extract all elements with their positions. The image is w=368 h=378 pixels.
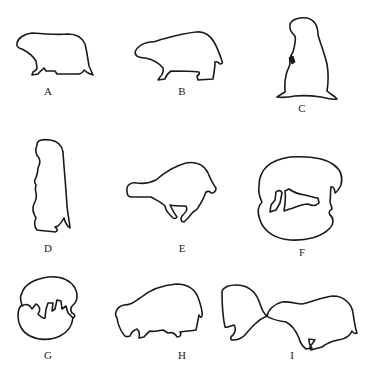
panel-c-drawing [277, 18, 337, 100]
panel-label-b: B [178, 86, 185, 97]
panel-g-drawing [18, 277, 77, 340]
panel-h-drawing [116, 284, 203, 338]
panel-label-a: A [44, 86, 52, 97]
panel-label-e: E [179, 243, 186, 254]
panel-d-drawing [33, 140, 70, 232]
panel-label-h: H [178, 350, 186, 361]
panel-e-drawing [127, 162, 216, 222]
panel-label-i: I [290, 350, 294, 361]
panel-label-c: C [298, 103, 305, 114]
panel-label-f: F [299, 247, 305, 258]
panel-b-drawing [135, 32, 222, 80]
panel-a-drawing [17, 33, 93, 75]
panel-label-g: G [44, 350, 52, 361]
panel-label-d: D [44, 243, 52, 254]
figure-canvas [0, 0, 368, 378]
panel-i-drawing [222, 285, 357, 350]
panel-f-drawing [258, 157, 341, 240]
